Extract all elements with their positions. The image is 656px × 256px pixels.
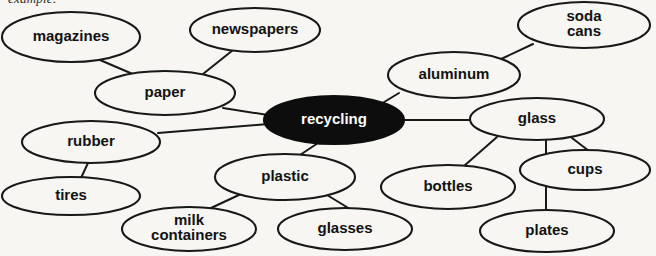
node-label-bottles: bottles <box>423 177 472 194</box>
node-label-tires: tires <box>55 186 87 203</box>
node-label-aluminum: aluminum <box>419 65 490 82</box>
node-layer: magazinesnewspaperspapersodacansaluminum… <box>2 2 650 252</box>
node-label-recycling: recycling <box>301 110 367 127</box>
node-label-milk-containers: containers <box>151 226 227 243</box>
node-label-soda-cans: cans <box>567 22 601 39</box>
node-label-glass: glass <box>518 109 556 126</box>
diagram-canvas: example: magazinesnewspaperspapersodacan… <box>0 0 656 256</box>
node-label-newspapers: newspapers <box>212 20 299 37</box>
node-paper[interactable]: paper <box>95 71 235 115</box>
concept-web-diagram: magazinesnewspaperspapersodacansaluminum… <box>0 0 656 256</box>
node-label-magazines: magazines <box>33 27 110 44</box>
link-newspapers-to-paper <box>203 50 233 74</box>
node-soda-cans[interactable]: sodacans <box>518 2 650 48</box>
node-plates[interactable]: plates <box>480 210 614 252</box>
link-magazines-to-paper <box>100 60 135 75</box>
node-recycling[interactable]: recycling <box>264 96 404 144</box>
link-plastic-to-glasses <box>327 195 350 209</box>
node-magazines[interactable]: magazines <box>2 12 140 62</box>
node-glasses[interactable]: glasses <box>278 208 412 250</box>
node-label-plastic: plastic <box>261 167 309 184</box>
node-label-glasses: glasses <box>317 219 372 236</box>
node-tires[interactable]: tires <box>2 177 140 215</box>
node-cups[interactable]: cups <box>520 150 650 190</box>
node-plastic[interactable]: plastic <box>215 154 355 200</box>
node-rubber[interactable]: rubber <box>22 121 160 163</box>
node-bottles[interactable]: bottles <box>381 165 515 209</box>
node-label-paper: paper <box>145 83 186 100</box>
link-plastic-to-milk-containers <box>211 194 241 208</box>
node-aluminum[interactable]: aluminum <box>388 52 520 98</box>
link-soda-cans-to-aluminum <box>499 44 533 60</box>
node-glass[interactable]: glass <box>470 98 604 140</box>
link-rubber-to-recycling <box>158 124 268 133</box>
link-plastic-to-recycling <box>300 143 318 155</box>
link-glass-to-bottles <box>464 137 497 166</box>
node-milk-containers[interactable]: milkcontainers <box>122 207 256 251</box>
node-label-cups: cups <box>567 160 602 177</box>
node-label-rubber: rubber <box>67 132 115 149</box>
node-newspapers[interactable]: newspapers <box>190 8 320 52</box>
link-rubber-to-tires <box>81 163 88 178</box>
node-label-plates: plates <box>525 221 568 238</box>
